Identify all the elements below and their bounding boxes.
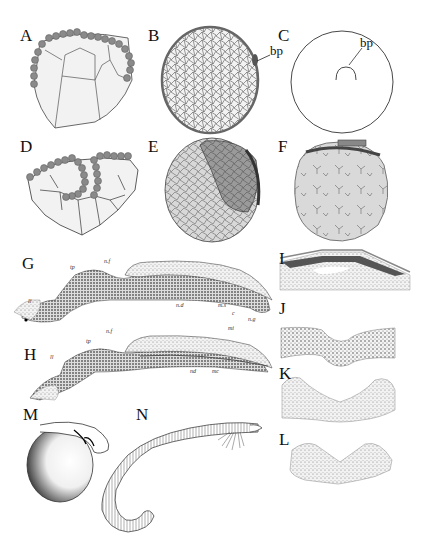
panel-b-drawing xyxy=(162,27,270,133)
panel-label-l: L xyxy=(279,431,289,448)
panel-label-f: F xyxy=(278,138,287,155)
label-bp-c: bp xyxy=(360,36,373,49)
panel-label-b: B xyxy=(148,27,159,44)
panel-label-e: E xyxy=(148,138,158,155)
panel-label-m: M xyxy=(23,406,38,423)
panel-i-drawing xyxy=(280,250,410,290)
panel-h-drawing xyxy=(30,336,272,400)
panel-label-n: N xyxy=(136,406,148,423)
label-h-mi: mi xyxy=(228,325,234,331)
label-bp-b: bp xyxy=(270,44,283,57)
panel-label-d: D xyxy=(20,138,32,155)
label-g-ms: m.s xyxy=(218,302,226,308)
figure-canvas xyxy=(0,0,421,545)
panel-k-drawing xyxy=(282,377,395,422)
panel-a-drawing xyxy=(31,29,135,129)
panel-f-drawing xyxy=(295,140,388,241)
label-g-nf: n.f xyxy=(104,258,110,264)
panel-c-drawing xyxy=(291,31,393,133)
label-g-tp: tp xyxy=(70,264,75,270)
panel-label-i: I xyxy=(279,250,285,267)
label-g-nd: n.d xyxy=(176,302,184,308)
label-h-ll: ll xyxy=(50,354,53,360)
panel-j-drawing xyxy=(281,327,395,366)
label-h-mc: mc xyxy=(212,368,219,374)
label-g-ng: n.g xyxy=(248,316,256,322)
panel-label-c: C xyxy=(278,27,289,44)
panel-e-drawing xyxy=(165,138,259,242)
label-h-nf: n.f xyxy=(106,328,112,334)
panel-label-k: K xyxy=(279,365,291,382)
panel-label-h: H xyxy=(24,346,36,363)
panel-m-drawing xyxy=(27,422,109,502)
label-h-tp: tp xyxy=(86,338,91,344)
label-h-nd: nd xyxy=(190,368,196,374)
label-g-c: c xyxy=(232,310,235,316)
panel-l-drawing xyxy=(290,443,392,484)
panel-n-drawing xyxy=(102,423,262,532)
panel-label-g: G xyxy=(22,255,34,272)
panel-d-drawing xyxy=(27,152,139,236)
label-g-ll: ll xyxy=(28,298,31,304)
panel-label-a: A xyxy=(20,27,32,44)
panel-label-j: J xyxy=(279,300,286,317)
